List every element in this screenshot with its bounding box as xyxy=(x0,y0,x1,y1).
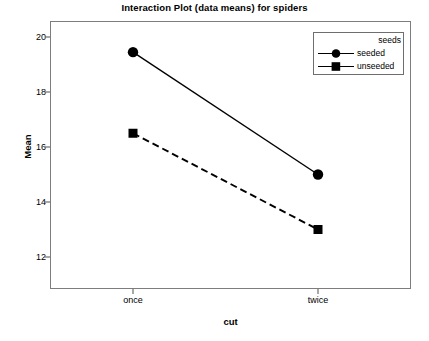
x-tick-label-once: once xyxy=(103,295,163,305)
legend-label-unseeded: unseeded xyxy=(357,61,394,71)
legend-marker-circle-icon xyxy=(317,47,355,60)
legend-item-unseeded: unseeded xyxy=(314,60,405,73)
y-tick-label-12: 12 xyxy=(22,252,46,262)
chart-title: Interaction Plot (data means) for spider… xyxy=(0,2,429,13)
y-tick-label-14: 14 xyxy=(22,197,46,207)
y-axis-title: Mean xyxy=(22,117,33,177)
y-axis: 20 18 16 14 12 Mean xyxy=(14,0,46,341)
legend-marker-square-icon xyxy=(317,60,355,73)
x-tick-label-twice: twice xyxy=(288,295,348,305)
x-tick-marks xyxy=(133,289,318,294)
legend: seeds seeded unseeded xyxy=(313,32,404,75)
interaction-plot-chart: Interaction Plot (data means) for spider… xyxy=(0,0,429,341)
legend-title: seeds xyxy=(314,35,405,45)
y-tick-label-20: 20 xyxy=(22,32,46,42)
legend-item-seeded: seeded xyxy=(314,47,405,60)
legend-label-seeded: seeded xyxy=(357,48,385,58)
x-axis-title: cut xyxy=(50,316,411,327)
y-tick-label-18: 18 xyxy=(22,87,46,97)
